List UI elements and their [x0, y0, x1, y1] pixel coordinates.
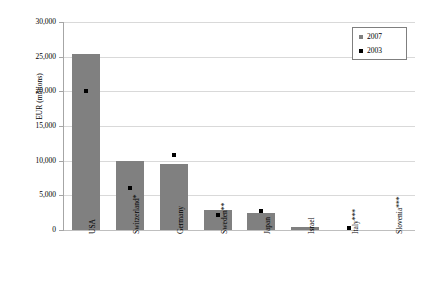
y-tick-label: 5,000 [16, 191, 56, 199]
legend-item-2007: 2007 [359, 33, 382, 41]
y-tick-mark [59, 57, 63, 58]
x-axis-label: Japan [264, 217, 272, 234]
x-axis-label: USA [89, 219, 97, 234]
marker-germany [172, 153, 176, 157]
y-tick-label: 30,000 [16, 18, 56, 26]
y-tick-mark [59, 195, 63, 196]
legend-swatch-2003 [359, 49, 363, 53]
x-axis-label: Germany [177, 206, 185, 234]
marker-switzerland [128, 186, 132, 190]
y-tick-label: 0 [16, 226, 56, 234]
y-tick-mark [59, 126, 63, 127]
y-tick-label: 25,000 [16, 53, 56, 61]
marker-usa [84, 89, 88, 93]
marker-japan [259, 209, 263, 213]
y-tick-mark [59, 22, 63, 23]
gridline [64, 91, 415, 92]
x-axis-label: Slovenia*** [396, 197, 404, 235]
legend-swatch-2007 [359, 35, 363, 39]
y-tick-mark [59, 161, 63, 162]
chart-container: EUR (millions) 30,00025,00020,00015,0001… [0, 0, 432, 289]
legend-label-2007: 2007 [367, 33, 382, 41]
marker-sweden [216, 213, 220, 217]
legend-item-2003: 2003 [359, 47, 382, 55]
chart-legend: 2007 2003 [352, 27, 407, 60]
gridline [64, 126, 415, 127]
y-tick-label: 15,000 [16, 122, 56, 130]
y-tick-mark [59, 230, 63, 231]
bar-usa [72, 54, 100, 230]
x-axis-label: Israel [308, 217, 316, 234]
y-tick-label: 20,000 [16, 87, 56, 95]
x-axis-label: Switzerland* [133, 194, 141, 234]
x-axis-label: Sweden** [221, 203, 229, 234]
x-axis-label: Italy*** [352, 209, 360, 234]
y-tick-label: 10,000 [16, 157, 56, 165]
y-tick-mark [59, 91, 63, 92]
legend-label-2003: 2003 [367, 47, 382, 55]
gridline [64, 22, 415, 23]
gridline [64, 230, 415, 231]
